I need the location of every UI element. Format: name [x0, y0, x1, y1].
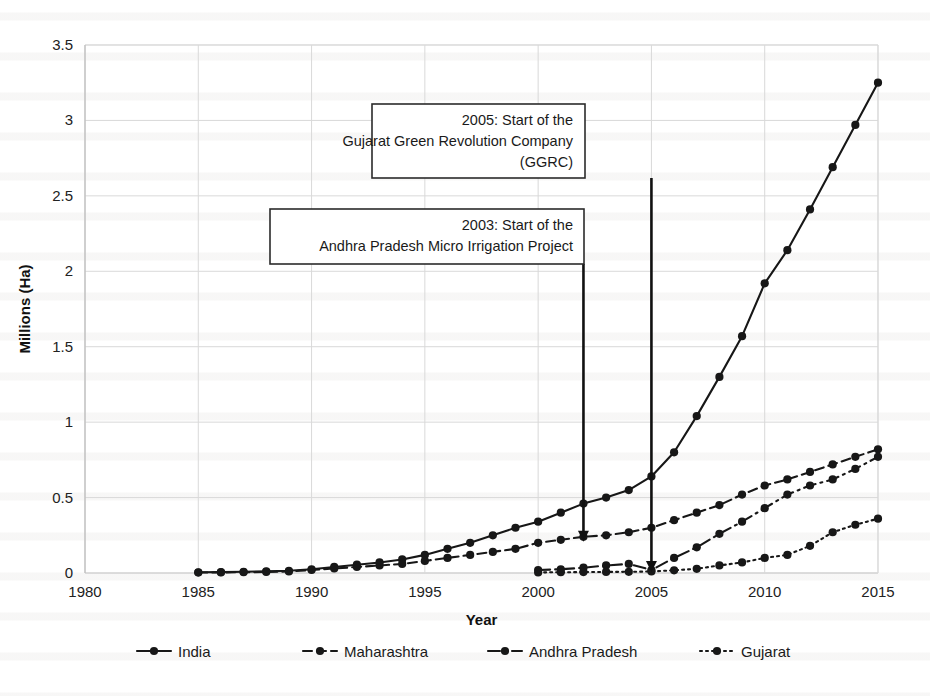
legend-marker — [150, 647, 158, 655]
x-tick-label: 1985 — [182, 583, 215, 600]
x-tick-label: 2010 — [748, 583, 781, 600]
data-point — [625, 528, 633, 536]
data-point — [307, 566, 315, 574]
data-point — [602, 531, 610, 539]
data-point — [761, 481, 769, 489]
x-tick-label: 2005 — [635, 583, 668, 600]
annotation-line: Andhra Pradesh Micro Irrigation Project — [319, 238, 573, 254]
data-point — [829, 528, 837, 536]
data-point — [217, 568, 225, 576]
data-point — [534, 539, 542, 547]
data-point — [715, 561, 723, 569]
data-point — [715, 501, 723, 509]
y-tick-label: 2 — [65, 262, 73, 279]
data-point — [829, 460, 837, 468]
x-tick-label: 2000 — [521, 583, 554, 600]
data-point — [851, 465, 859, 473]
annotation-line: 2003: Start of the — [462, 217, 573, 233]
x-tick-label: 1995 — [408, 583, 441, 600]
y-tick-label: 3.5 — [52, 36, 73, 53]
legend-marker — [316, 647, 324, 655]
data-point — [783, 551, 791, 559]
data-point — [602, 493, 610, 501]
data-point — [579, 568, 587, 576]
data-point — [443, 554, 451, 562]
data-point — [874, 79, 882, 87]
data-point — [489, 531, 497, 539]
data-point — [443, 545, 451, 553]
y-tick-label: 3 — [65, 111, 73, 128]
legend-label: India — [178, 643, 211, 660]
annotations: 2005: Start of theGujarat Green Revoluti… — [270, 104, 657, 572]
data-point — [874, 515, 882, 523]
data-point — [851, 521, 859, 529]
chart-canvas: 2005: Start of theGujarat Green Revoluti… — [0, 0, 930, 696]
legend-marker — [501, 647, 509, 655]
data-point — [806, 481, 814, 489]
data-point — [738, 558, 746, 566]
annotation-line: (GGRC) — [520, 154, 573, 170]
data-point — [738, 332, 746, 340]
data-point — [670, 448, 678, 456]
data-point — [693, 509, 701, 517]
data-point — [806, 468, 814, 476]
legend-marker — [713, 647, 721, 655]
data-point — [738, 490, 746, 498]
y-tick-label: 1 — [65, 413, 73, 430]
data-point — [625, 486, 633, 494]
y-tick-label: 2.5 — [52, 187, 73, 204]
data-point — [489, 548, 497, 556]
x-tick-label: 1980 — [68, 583, 101, 600]
data-point — [715, 530, 723, 538]
data-point — [693, 412, 701, 420]
data-point — [625, 560, 633, 568]
data-point — [557, 509, 565, 517]
data-point — [829, 163, 837, 171]
data-point — [761, 554, 769, 562]
x-tick-label: 1990 — [295, 583, 328, 600]
series-line-andhra-pradesh — [538, 457, 878, 570]
data-point — [693, 543, 701, 551]
data-point — [761, 279, 769, 287]
data-point — [874, 453, 882, 461]
data-point — [194, 568, 202, 576]
data-point — [806, 205, 814, 213]
data-point — [353, 563, 361, 571]
data-point — [625, 568, 633, 576]
data-point — [670, 554, 678, 562]
data-point — [375, 561, 383, 569]
data-point — [874, 445, 882, 453]
annotation-line: 2005: Start of the — [462, 112, 573, 128]
data-point — [693, 565, 701, 573]
data-point — [466, 539, 474, 547]
data-point — [511, 545, 519, 553]
data-point — [670, 516, 678, 524]
data-point — [806, 542, 814, 550]
legend-label: Gujarat — [741, 643, 791, 660]
data-point — [715, 373, 723, 381]
y-tick-label: 0.5 — [52, 489, 73, 506]
y-tick-label: 0 — [65, 564, 73, 581]
data-point — [398, 560, 406, 568]
data-point — [557, 536, 565, 544]
y-tick-label: 1.5 — [52, 338, 73, 355]
data-point — [829, 475, 837, 483]
data-point — [670, 566, 678, 574]
legend-label: Andhra Pradesh — [529, 643, 637, 660]
data-point — [557, 568, 565, 576]
y-axis-title: Millions (Ha) — [16, 264, 33, 353]
x-tick-label: 2015 — [861, 583, 894, 600]
data-point — [262, 568, 270, 576]
data-point — [285, 567, 293, 575]
data-point — [783, 475, 791, 483]
x-axis-title: Year — [466, 611, 498, 628]
data-point — [240, 568, 248, 576]
data-point — [534, 518, 542, 526]
data-point — [421, 557, 429, 565]
legend: IndiaMaharashtraAndhra PradeshGujarat — [137, 643, 791, 660]
data-point — [330, 564, 338, 572]
data-point — [511, 524, 519, 532]
data-point — [761, 504, 769, 512]
data-point — [602, 568, 610, 576]
data-point — [738, 518, 746, 526]
